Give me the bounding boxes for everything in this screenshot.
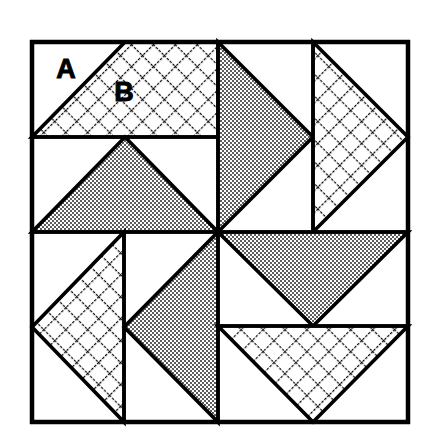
patch-label-b: B [114,77,134,107]
quilt-block-svg: A B [0,0,426,448]
patch-label-a: A [56,54,76,84]
quilt-block-figure: A B [0,0,426,448]
